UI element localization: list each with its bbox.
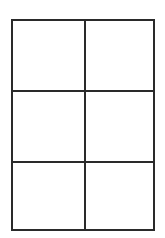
grid-cell-r2c1 <box>13 92 84 161</box>
grid-cell-r1c2 <box>86 21 153 90</box>
grid-3x2 <box>11 19 155 231</box>
grid-cell-r3c1 <box>13 163 84 229</box>
grid-cell-r3c2 <box>86 163 153 229</box>
grid-cell-r1c1 <box>13 21 84 90</box>
grid-cell-r2c2 <box>86 92 153 161</box>
